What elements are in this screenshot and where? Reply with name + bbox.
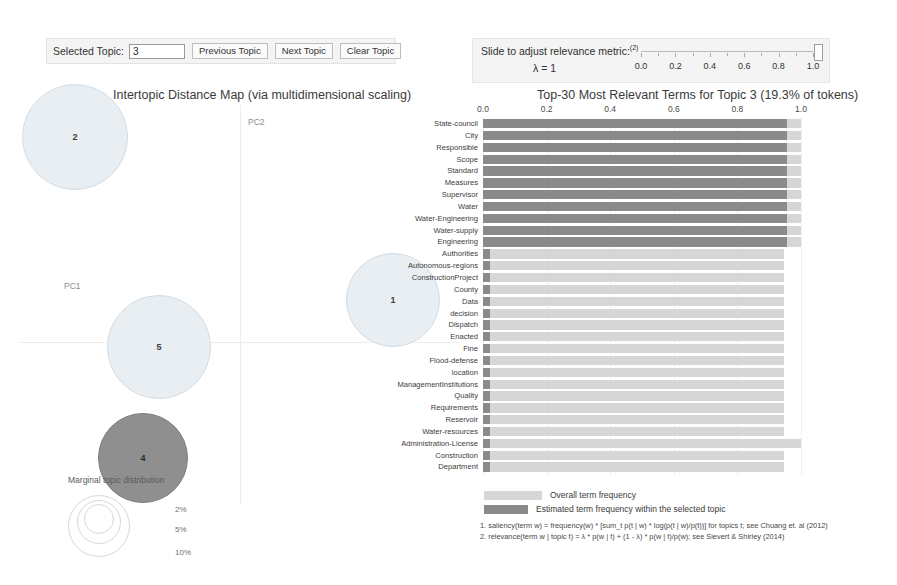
barchart-x-tick-label: 1.0 xyxy=(795,104,807,114)
barchart-row[interactable]: Fine xyxy=(402,343,882,355)
bar-overall-frequency xyxy=(483,297,784,306)
bar-topic-frequency xyxy=(483,439,490,448)
barchart-row[interactable]: Standard xyxy=(402,165,882,177)
barchart-row[interactable]: decision xyxy=(402,308,882,320)
size-legend-label: 10% xyxy=(175,548,191,557)
bar-topic-frequency xyxy=(483,320,490,329)
pyldavis-visualization: Selected Topic: Previous Topic Next Topi… xyxy=(0,0,897,585)
barchart-row[interactable]: Construction xyxy=(402,450,882,462)
barchart-row[interactable]: Quality xyxy=(402,390,882,402)
barchart-row[interactable]: Water-Engineering xyxy=(402,213,882,225)
barchart-term-label[interactable]: ManagementInstitutions xyxy=(218,379,478,391)
barchart-term-label[interactable]: Engineering xyxy=(218,236,478,248)
topic-bubble-label-4: 4 xyxy=(140,453,145,463)
barchart-row[interactable]: Dispatch xyxy=(402,319,882,331)
bar-topic-frequency xyxy=(483,190,787,199)
barchart-row[interactable]: City xyxy=(402,130,882,142)
barchart-term-label[interactable]: Responsible xyxy=(218,142,478,154)
barchart-row[interactable]: Data xyxy=(402,296,882,308)
bar-topic-frequency xyxy=(483,166,787,175)
barchart-row[interactable]: Engineering xyxy=(402,236,882,248)
barchart-term-label[interactable]: Dispatch xyxy=(218,319,478,331)
barchart-x-tick-label: 0.4 xyxy=(604,104,616,114)
barchart-term-label[interactable]: Supervisor xyxy=(218,189,478,201)
barchart-row[interactable]: Water-supply xyxy=(402,225,882,237)
bar-topic-frequency xyxy=(483,261,490,270)
barchart-term-label[interactable]: Standard xyxy=(218,165,478,177)
barchart-term-label[interactable]: Requirements xyxy=(218,402,478,414)
barchart-term-label[interactable]: Authorities xyxy=(218,248,478,260)
barchart-x-axis: 0.00.20.40.60.81.0 xyxy=(483,104,801,117)
barchart-row[interactable]: Water xyxy=(402,201,882,213)
barchart-row[interactable]: Scope xyxy=(402,154,882,166)
relevance-slider-track[interactable] xyxy=(641,51,813,52)
relevance-slider-label: Slide to adjust relevance metric:(2) xyxy=(481,44,638,57)
bar-overall-frequency xyxy=(483,427,784,436)
barchart-term-label[interactable]: Water xyxy=(218,201,478,213)
barchart-row[interactable]: Requirements xyxy=(402,402,882,414)
barchart-term-label[interactable]: Scope xyxy=(218,154,478,166)
barchart-row[interactable]: State-council xyxy=(402,118,882,130)
marginal-topic-distribution-label: Marginal topic distribution xyxy=(68,475,164,485)
slider-tick-minor xyxy=(693,53,694,56)
barchart-row[interactable]: Flood-defense xyxy=(402,355,882,367)
barchart-row[interactable]: location xyxy=(402,367,882,379)
barchart-row[interactable]: Supervisor xyxy=(402,189,882,201)
barchart-row[interactable]: ManagementInstitutions xyxy=(402,379,882,391)
bar-topic-frequency xyxy=(483,249,490,258)
intertopic-map-title: Intertopic Distance Map (via multidimens… xyxy=(113,88,411,102)
barchart-row[interactable]: Reservoir xyxy=(402,414,882,426)
barchart-term-label[interactable]: Fine xyxy=(218,343,478,355)
barchart-term-label[interactable]: County xyxy=(218,284,478,296)
barchart-x-tick-label: 0.0 xyxy=(477,104,489,114)
slider-tick-minor xyxy=(761,53,762,56)
barchart-term-label[interactable]: Reservoir xyxy=(218,414,478,426)
barchart-term-label[interactable]: location xyxy=(218,367,478,379)
bar-topic-frequency xyxy=(483,297,490,306)
barchart-row[interactable]: County xyxy=(402,284,882,296)
bar-topic-frequency xyxy=(483,178,787,187)
bar-topic-frequency xyxy=(483,427,490,436)
barchart-row[interactable]: Water-resources xyxy=(402,426,882,438)
bar-overall-frequency xyxy=(483,249,784,258)
relevance-slider-handle[interactable] xyxy=(814,44,823,61)
legend-swatch-overall xyxy=(484,491,542,500)
barchart-row[interactable]: Department xyxy=(402,461,882,473)
barchart-term-label[interactable]: Water-resources xyxy=(218,426,478,438)
bar-overall-frequency xyxy=(483,332,784,341)
barchart-term-label[interactable]: Autonomous-regions xyxy=(218,260,478,272)
barchart-row[interactable]: Autonomous-regions xyxy=(402,260,882,272)
barchart-row[interactable]: Administration-License xyxy=(402,438,882,450)
barchart-term-label[interactable]: State-council xyxy=(218,118,478,130)
barchart-term-label[interactable]: Construction xyxy=(218,450,478,462)
relevance-slider-label-text: Slide to adjust relevance metric: xyxy=(481,45,630,57)
clear-topic-button[interactable]: Clear Topic xyxy=(340,43,401,59)
barchart-term-label[interactable]: Water-Engineering xyxy=(218,213,478,225)
barchart-term-label[interactable]: Quality xyxy=(218,390,478,402)
next-topic-button[interactable]: Next Topic xyxy=(275,43,333,59)
barchart-term-label[interactable]: Data xyxy=(218,296,478,308)
barchart-term-label[interactable]: decision xyxy=(218,308,478,320)
barchart-term-label[interactable]: ConstructionProject xyxy=(218,272,478,284)
selected-topic-input[interactable] xyxy=(129,44,185,59)
map-axis-label-pc1: PC1 xyxy=(64,281,81,291)
barchart-term-label[interactable]: Department xyxy=(218,461,478,473)
slider-tick xyxy=(744,53,745,57)
bar-overall-frequency xyxy=(483,380,784,389)
barchart-row[interactable]: Measures xyxy=(402,177,882,189)
lambda-value-readout: λ = 1 xyxy=(533,62,556,74)
barchart-term-label[interactable]: Flood-defense xyxy=(218,355,478,367)
barchart-term-label[interactable]: Measures xyxy=(218,177,478,189)
barchart-row[interactable]: Responsible xyxy=(402,142,882,154)
bar-topic-frequency xyxy=(483,368,490,377)
barchart-term-label[interactable]: Enacted xyxy=(218,331,478,343)
previous-topic-button[interactable]: Previous Topic xyxy=(192,43,268,59)
barchart-term-label[interactable]: Water-supply xyxy=(218,225,478,237)
barchart-row[interactable]: Authorities xyxy=(402,248,882,260)
barchart-term-label[interactable]: Administration-License xyxy=(218,438,478,450)
barchart-row[interactable]: Enacted xyxy=(402,331,882,343)
top-terms-title: Top-30 Most Relevant Terms for Topic 3 (… xyxy=(537,88,858,102)
barchart-row[interactable]: ConstructionProject xyxy=(402,272,882,284)
bar-overall-frequency xyxy=(483,368,784,377)
barchart-term-label[interactable]: City xyxy=(218,130,478,142)
